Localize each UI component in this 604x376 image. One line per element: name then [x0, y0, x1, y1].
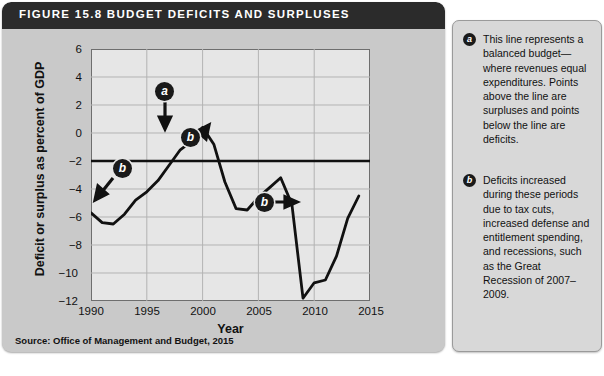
- x-tick-2000: 2000: [178, 305, 228, 317]
- y-tick-m6: −6: [42, 211, 82, 223]
- x-tick-1990: 1990: [66, 305, 116, 317]
- x-tick-2010: 2010: [290, 305, 340, 317]
- x-tick-1995: 1995: [122, 305, 172, 317]
- x-tick-2015: 2015: [346, 305, 396, 317]
- legend-note-a-text: This line represents a balanced budget—w…: [483, 32, 591, 146]
- callout-badge-b2[interactable]: b: [181, 128, 200, 147]
- x-tick-2005: 2005: [234, 305, 284, 317]
- figure-title: FIGURE 15.8 BUDGET DEFICITS AND SURPLUSE…: [19, 8, 350, 20]
- y-tick-m4: −4: [42, 183, 82, 195]
- legend-badge-a: a: [463, 33, 476, 46]
- legend-badge-b: b: [463, 174, 476, 187]
- x-axis-label: Year: [91, 322, 370, 336]
- figure-title-bar: FIGURE 15.8 BUDGET DEFICITS AND SURPLUSE…: [2, 2, 445, 29]
- chart-svg: [91, 49, 370, 301]
- y-tick-m2: −2: [42, 155, 82, 167]
- y-tick-m10: −10: [38, 267, 78, 279]
- y-axis-label: Deficit or surplus as percent of GDP: [33, 49, 47, 289]
- figure-container: FIGURE 15.8 BUDGET DEFICITS AND SURPLUSE…: [0, 0, 604, 376]
- callout-badge-b3[interactable]: b: [255, 193, 274, 212]
- callout-badge-a[interactable]: a: [155, 82, 174, 101]
- y-tick-m8: −8: [42, 239, 82, 251]
- legend-note-b: b Deficits increased during these period…: [463, 173, 591, 302]
- horizontal-gridlines: [91, 77, 370, 273]
- chart-panel: FIGURE 15.8 BUDGET DEFICITS AND SURPLUSE…: [2, 2, 445, 352]
- plot-area: a b b b: [91, 49, 370, 301]
- y-tick-2: 2: [42, 99, 82, 111]
- source-note: Source: Office of Management and Budget,…: [15, 335, 234, 346]
- legend-note-a: a This line represents a balanced budget…: [463, 32, 591, 146]
- y-tick-4: 4: [42, 71, 82, 83]
- callout-badge-b1[interactable]: b: [113, 159, 132, 178]
- annotation-legend-panel: a This line represents a balanced budget…: [452, 20, 602, 352]
- legend-note-b-text: Deficits increased during these periods …: [483, 173, 591, 302]
- y-tick-6: 6: [42, 43, 82, 55]
- y-tick-0: 0: [42, 127, 82, 139]
